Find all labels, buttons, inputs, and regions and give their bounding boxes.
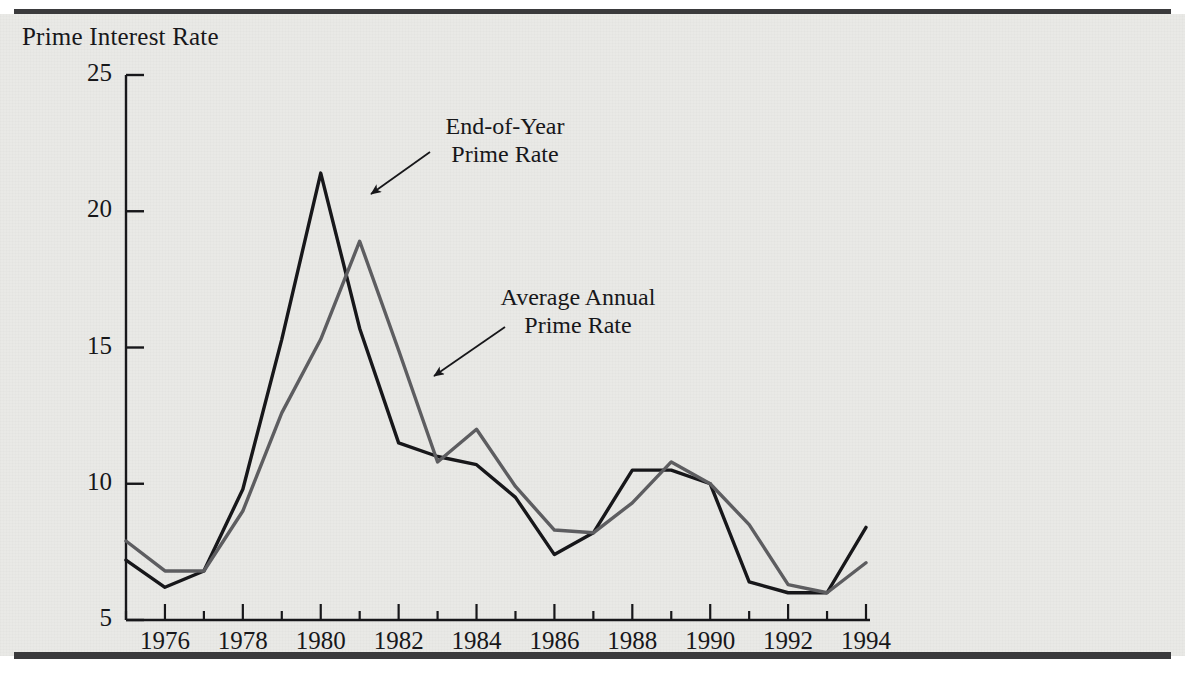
annotation-arrows	[371, 152, 505, 376]
x-axis-tick-label-1992: 1992	[763, 627, 813, 655]
x-axis-tick-label-1976: 1976	[140, 627, 190, 655]
series-line-end-of-year	[126, 173, 866, 593]
x-axis-tick-label-1988: 1988	[607, 627, 657, 655]
x-axis-tick-label-1982: 1982	[374, 627, 424, 655]
y-axis-tick-label-25: 25	[87, 59, 112, 87]
average-annual-annotation: Average Annual Prime Rate	[501, 284, 656, 340]
end-of-year-annotation: End-of-Year Prime Rate	[446, 113, 565, 169]
x-axis-tick-label-1978: 1978	[218, 627, 268, 655]
y-axis-tick-label-20: 20	[87, 195, 112, 223]
chart-series	[126, 173, 866, 593]
x-axis-tick-label-1990: 1990	[685, 627, 735, 655]
y-axis-tick-label-10: 10	[87, 468, 112, 496]
series-line-average-annual	[126, 241, 866, 593]
x-axis-tick-label-1986: 1986	[529, 627, 579, 655]
x-axis-tick-label-1984: 1984	[452, 627, 502, 655]
end-of-year-annotation-arrow	[371, 152, 430, 194]
y-axis-tick-label-5: 5	[100, 604, 113, 632]
figure-page: Prime Interest Rate 51015202519761978198…	[0, 0, 1185, 673]
y-axis-tick-label-15: 15	[87, 332, 112, 360]
x-axis-tick-label-1994: 1994	[841, 627, 891, 655]
average-annual-annotation-arrow	[434, 327, 505, 376]
x-axis-tick-label-1980: 1980	[296, 627, 346, 655]
